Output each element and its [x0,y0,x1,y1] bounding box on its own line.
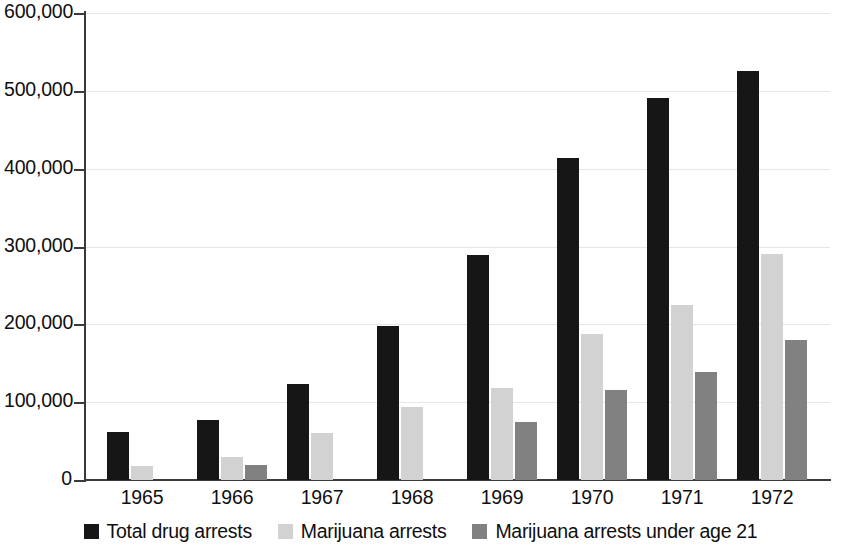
bar [515,422,537,480]
bar [377,326,399,480]
y-axis-tick [74,324,85,326]
bar [221,457,243,480]
x-axis-tick-label: 1969 [457,486,547,509]
bar [245,465,267,480]
bar-group [107,13,177,480]
bar-group [557,13,627,480]
x-axis-tick-label: 1971 [637,486,727,509]
bar [467,255,489,480]
bar [605,390,627,480]
x-axis-tick-label: 1967 [277,486,367,509]
bar [197,420,219,480]
x-axis-tick-label: 1970 [547,486,637,509]
y-axis-tick [74,247,85,249]
x-axis-tick-label: 1972 [727,486,817,509]
y-axis-tick-label: 500,000 [4,78,72,101]
bar [401,407,423,480]
y-axis-tick [74,480,85,482]
bar-group [287,13,357,480]
legend-item: Marijuana arrests under age 21 [472,520,757,543]
y-axis-tick [74,13,85,15]
legend-label: Total drug arrests [107,520,252,543]
bar [671,305,693,480]
bar [557,158,579,480]
bar [107,432,129,480]
bar [311,433,333,480]
bar-group [737,13,807,480]
legend-label: Marijuana arrests [301,520,447,543]
bar [761,254,783,480]
bar-chart: 0100,000200,000300,000400,000500,000600,… [0,0,841,552]
legend-swatch-icon [84,524,99,539]
chart-legend: Total drug arrestsMarijuana arrestsMarij… [0,520,841,543]
x-axis-tick-label: 1968 [367,486,457,509]
y-axis-tick [74,169,85,171]
bar-group [197,13,267,480]
x-axis-tick-label: 1966 [187,486,277,509]
x-axis-tick-label: 1965 [97,486,187,509]
y-axis-tick-label: 600,000 [4,0,72,23]
y-axis-tick-label: 400,000 [4,156,72,179]
bar [785,340,807,480]
y-axis-tick-label: 100,000 [4,389,72,412]
y-axis-tick-label: 0 [4,467,72,490]
legend-swatch-icon [278,524,293,539]
bar [647,98,669,480]
legend-item: Total drug arrests [84,520,252,543]
bar [287,384,309,480]
legend-label: Marijuana arrests under age 21 [495,520,757,543]
bar [131,466,153,480]
bar-group [377,13,447,480]
y-axis-tick-label: 300,000 [4,234,72,257]
bar-group [647,13,717,480]
bar [737,71,759,480]
y-axis-tick [74,402,85,404]
legend-item: Marijuana arrests [278,520,447,543]
bar [491,388,513,480]
legend-swatch-icon [472,524,487,539]
y-axis-tick [74,91,85,93]
plot-bars [85,13,830,480]
bar [695,372,717,480]
y-axis-tick-label: 200,000 [4,311,72,334]
bar-group [467,13,537,480]
bar [581,334,603,480]
